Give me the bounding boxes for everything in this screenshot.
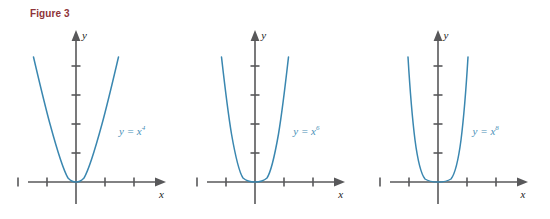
graph-svg-1: [0, 24, 183, 219]
axes-3: [380, 30, 528, 204]
axes-1: [18, 30, 166, 204]
curve-label-1: y = x4: [119, 126, 145, 137]
curve-label-1-exponent: 4: [142, 124, 146, 132]
x-axis-arrow: [334, 178, 345, 187]
curve-label-1-text: y = x: [119, 125, 142, 137]
x-axis-label-3: x: [521, 189, 526, 200]
y-axis-arrow: [72, 30, 81, 41]
graph-panel-3: y = x8 y x: [367, 24, 550, 219]
graph-panel-1: y = x4 y x: [0, 24, 183, 219]
x-axis-arrow: [517, 178, 528, 187]
x-axis-label-1: x: [159, 189, 164, 200]
curve-label-2-text: y = x: [293, 125, 316, 137]
panel-row: y = x4 y x: [0, 24, 550, 219]
curve-label-2-exponent: 6: [316, 124, 320, 132]
curve-label-2: y = x6: [293, 126, 319, 137]
graph-panel-2: y = x6 y x: [183, 24, 366, 219]
y-axis-label-2: y: [261, 30, 266, 41]
x-axis-label-2: x: [338, 189, 343, 200]
y-axis-arrow: [251, 30, 260, 41]
y-axis-label-3: y: [444, 30, 449, 41]
curve-label-3-exponent: 8: [495, 124, 499, 132]
curve-label-3: y = x8: [473, 126, 499, 137]
figure-title: Figure 3: [30, 8, 70, 19]
y-axis-label-1: y: [82, 30, 87, 41]
y-axis-arrow: [433, 30, 442, 41]
curve-label-3-text: y = x: [473, 125, 496, 137]
axes-2: [197, 30, 345, 204]
figure-root: Figure 3: [0, 0, 550, 219]
x-axis-arrow: [155, 178, 166, 187]
